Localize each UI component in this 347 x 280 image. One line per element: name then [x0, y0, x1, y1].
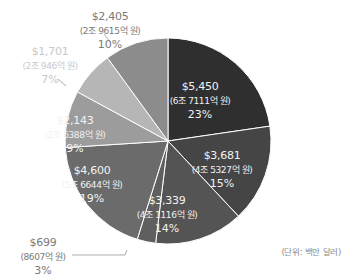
- slice-label-2143: $2,143 (2조 6388억 원) 9%: [35, 114, 115, 156]
- slice-label-3681: $3,681 (4조 5327억 원) 15%: [182, 149, 262, 191]
- slice-percent: 7%: [10, 73, 90, 87]
- leader-line-699: [72, 250, 127, 255]
- slice-percent: 3%: [12, 264, 74, 278]
- slice-value: $5,450: [160, 80, 240, 94]
- slice-label-1701: $1,701 (2조 946억 원) 7%: [10, 45, 90, 87]
- slice-value: $3,339: [127, 194, 207, 208]
- slice-value: $699: [12, 236, 74, 250]
- slice-krw: (5조 6644억 원): [52, 178, 132, 192]
- slice-krw: (8607억 원): [12, 250, 74, 264]
- slice-value: $3,681: [182, 149, 262, 163]
- slice-percent: 14%: [127, 222, 207, 236]
- slice-krw: (4조 1116억 원): [127, 208, 207, 222]
- slice-krw: (2조 946억 원): [10, 59, 90, 73]
- unit-note: (단위: 백만 달러): [281, 245, 341, 257]
- slice-percent: 19%: [52, 192, 132, 206]
- slice-percent: 15%: [182, 177, 262, 191]
- slice-value: $1,701: [10, 45, 90, 59]
- slice-label-5450: $5,450 (6조 7111억 원) 23%: [160, 80, 240, 122]
- slice-value: $2,405: [70, 10, 150, 24]
- slice-label-699: $699 (8607억 원) 3%: [12, 236, 74, 278]
- slice-krw: (2조 6388억 원): [35, 128, 115, 142]
- slice-krw: (4조 5327억 원): [182, 163, 262, 177]
- slice-value: $4,600: [52, 164, 132, 178]
- slice-label-4600: $4,600 (5조 6644억 원) 19%: [52, 164, 132, 206]
- slice-percent: 9%: [35, 142, 115, 156]
- slice-krw: (6조 7111억 원): [160, 94, 240, 108]
- slice-value: $2,143: [35, 114, 115, 128]
- slice-krw: (2조 9615억 원): [70, 24, 150, 38]
- slice-label-3339: $3,339 (4조 1116억 원) 14%: [127, 194, 207, 236]
- slice-percent: 23%: [160, 108, 240, 122]
